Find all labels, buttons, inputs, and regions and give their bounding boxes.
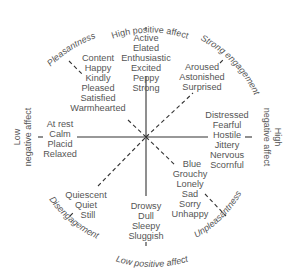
word: Peppy — [133, 73, 159, 83]
word: Dull — [138, 211, 154, 221]
diag-lower-right — [146, 137, 175, 165]
svg-text:negative affect: negative affect — [262, 108, 272, 167]
word: Sad — [182, 189, 198, 199]
word: Lonely — [176, 179, 203, 189]
word: Nervous — [210, 150, 245, 160]
cluster-low-positive: Drowsy Dull Sleepy Sluggish — [128, 201, 163, 241]
word: Content — [82, 53, 115, 63]
svg-text:Low: Low — [12, 128, 22, 145]
word: Unhappy — [172, 209, 209, 219]
word: Aroused — [185, 62, 219, 72]
word: Happy — [85, 63, 112, 73]
diag-lower-left — [98, 137, 146, 186]
cluster-high-negative: Distressed Fearful Hostile Jittery Nervo… — [205, 110, 248, 170]
word: Warmhearted — [70, 103, 125, 113]
circumplex-svg: High positive affect Low positive affect… — [0, 0, 293, 271]
cluster-strong-engagement: Aroused Astonished Surprised — [179, 62, 224, 92]
word: Grouchy — [173, 169, 208, 179]
word: Quiet — [75, 200, 97, 210]
cluster-high-positive: Active Elated Enthusiastic Excited Peppy… — [121, 33, 171, 93]
word: Active — [133, 33, 158, 43]
word: Relaxed — [43, 149, 77, 159]
word: Enthusiastic — [121, 53, 171, 63]
word: Pleased — [81, 83, 114, 93]
word: Drowsy — [131, 201, 162, 211]
diag-upper-left-outer — [69, 61, 82, 74]
svg-text:High: High — [273, 128, 283, 147]
word: Sorry — [179, 199, 201, 209]
word: Elated — [133, 43, 159, 53]
cluster-pleasantness: Content Happy Kindly Pleased Satisfied W… — [70, 53, 125, 113]
circumplex-diagram: High positive affect Low positive affect… — [0, 0, 293, 271]
diag-upper-right-outer — [220, 59, 224, 63]
word: Sleepy — [132, 221, 160, 231]
word: Distressed — [205, 110, 248, 120]
word: Kindly — [85, 73, 110, 83]
word: Placid — [47, 139, 72, 149]
word: Still — [81, 210, 96, 220]
word: Scornful — [210, 160, 244, 170]
word: Excited — [131, 63, 161, 73]
word: Strong — [132, 83, 159, 93]
word: Sluggish — [128, 231, 163, 241]
word: Satisfied — [80, 93, 115, 103]
word: Surprised — [182, 82, 221, 92]
word: Blue — [183, 159, 201, 169]
label-low-negative-affect: Low negative affect — [12, 107, 33, 166]
word: Astonished — [179, 72, 224, 82]
label-low-positive-affect: Low positive affect — [115, 254, 190, 269]
label-high-negative-affect: High negative affect — [262, 108, 283, 167]
word: Hostile — [213, 130, 241, 140]
word: At rest — [47, 119, 74, 129]
word: Fearful — [213, 120, 242, 130]
cluster-unpleasantness: Blue Grouchy Lonely Sad Sorry Unhappy — [172, 159, 209, 219]
word: Jittery — [215, 140, 240, 150]
word: Quiescent — [65, 190, 107, 200]
word: Calm — [49, 129, 71, 139]
diag-upper-right — [146, 93, 193, 137]
cluster-low-negative: At rest Calm Placid Relaxed — [43, 119, 77, 159]
diag-upper-left — [128, 120, 146, 137]
svg-text:negative affect: negative affect — [23, 107, 33, 166]
